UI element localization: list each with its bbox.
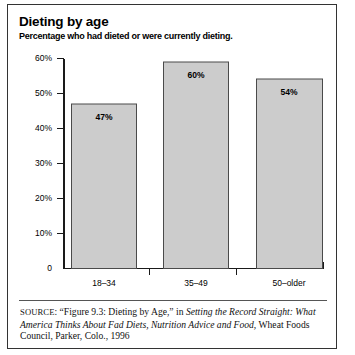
source-text-part1: : “Figure 9.3: Dieting by Age,” in bbox=[55, 306, 186, 317]
bar-value-18-34: 47% bbox=[95, 112, 112, 122]
y-tick-label-50: 50% bbox=[35, 88, 52, 98]
y-axis-ticks bbox=[57, 59, 64, 234]
y-tick-label-60: 60% bbox=[35, 53, 52, 63]
bar-value-35-49: 60% bbox=[187, 70, 204, 80]
figure-container: Dieting by age Percentage who had dieted… bbox=[7, 4, 337, 349]
x-category-label-35-49: 35–49 bbox=[184, 278, 208, 288]
x-axis-ticks bbox=[150, 269, 237, 276]
bar-50-older bbox=[257, 79, 323, 269]
x-category-label-50-older: 50–older bbox=[272, 278, 305, 288]
x-category-label-18-34: 18–34 bbox=[92, 278, 116, 288]
bar-18-34 bbox=[72, 104, 137, 269]
y-tick-label-0: 0 bbox=[47, 263, 52, 273]
source-note: SOURCE: “Figure 9.3: Dieting by Age,” in… bbox=[20, 306, 330, 342]
bar-chart-plot: 60% 50% 40% 30% 20% 10% 0 bbox=[8, 5, 338, 305]
y-tick-label-10: 10% bbox=[35, 228, 52, 238]
source-label: SOURCE bbox=[20, 307, 55, 317]
y-tick-label-20: 20% bbox=[35, 193, 52, 203]
y-tick-label-40: 40% bbox=[35, 123, 52, 133]
source-title-line1: Setting the Record Straight: bbox=[186, 306, 293, 317]
source-divider bbox=[19, 300, 327, 301]
y-tick-label-30: 30% bbox=[35, 158, 52, 168]
bar-35-49 bbox=[164, 62, 229, 269]
bar-value-50-older: 54% bbox=[280, 87, 297, 97]
